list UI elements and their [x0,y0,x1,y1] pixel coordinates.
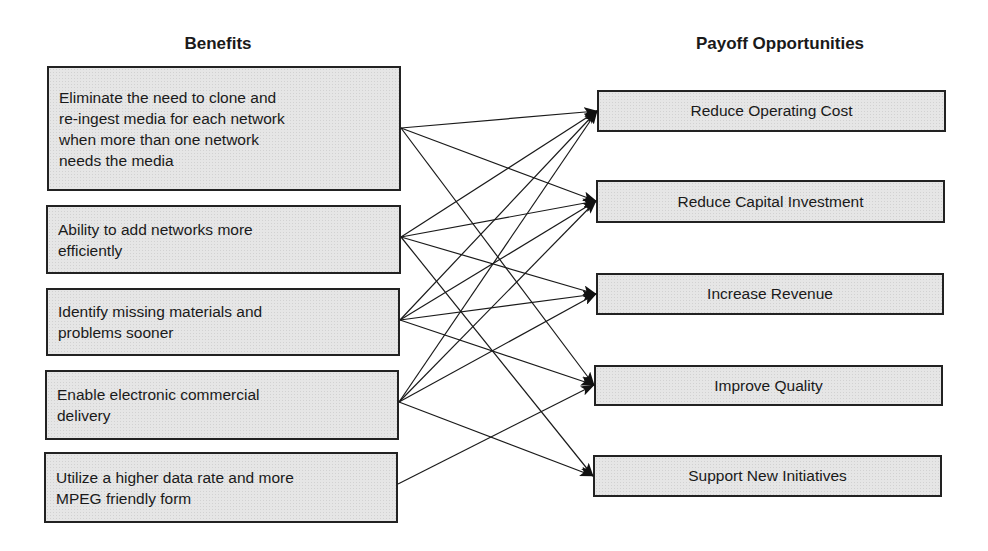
benefit-label: Utilize a higher data rate and more MPEG… [56,467,294,509]
arrow-B4-P2 [399,201,596,402]
arrow-B3-P2 [400,201,596,320]
benefit-box-clone-reingest: Eliminate the need to clone and re-inges… [47,66,401,191]
arrow-B1-P2 [401,128,596,201]
payoff-box-improve-quality: Improve Quality [594,365,943,406]
benefit-box-identify-missing: Identify missing materials and problems … [46,288,400,356]
benefits-heading: Benefits [148,34,288,54]
payoff-box-reduce-operating-cost: Reduce Operating Cost [597,90,946,132]
arrow-B1-P1 [401,111,597,128]
arrow-B3-P3 [400,294,596,320]
benefit-label: Eliminate the need to clone and re-inges… [59,87,285,171]
payoff-label: Reduce Capital Investment [677,193,863,211]
benefit-label: Identify missing materials and problems … [58,301,262,343]
arrow-B2-P1 [401,111,597,237]
arrow-B4-P5 [399,402,593,476]
benefit-box-electronic-delivery: Enable electronic commercial delivery [45,370,399,440]
arrow-B4-P3 [399,294,596,402]
arrow-B5-P4 [398,385,594,484]
benefit-label: Enable electronic commercial delivery [57,384,259,426]
arrow-B2-P3 [401,237,596,294]
payoff-label: Reduce Operating Cost [691,102,853,120]
arrow-B2-P2 [401,201,596,237]
payoff-box-reduce-capital-investment: Reduce Capital Investment [596,180,945,223]
arrow-B2-P5 [401,237,593,476]
benefit-box-higher-data-rate: Utilize a higher data rate and more MPEG… [44,452,398,523]
payoff-label: Support New Initiatives [688,467,847,485]
payoff-box-support-new-initiatives: Support New Initiatives [593,455,942,497]
benefit-box-add-networks: Ability to add networks more efficiently [46,205,401,274]
payoff-label: Improve Quality [714,377,823,395]
payoff-box-increase-revenue: Increase Revenue [596,273,944,315]
payoff-label: Increase Revenue [707,285,833,303]
arrow-B3-P4 [400,320,594,385]
payoff-opportunities-heading: Payoff Opportunities [660,34,900,54]
benefit-label: Ability to add networks more efficiently [58,219,253,261]
arrow-B3-P1 [400,111,597,320]
arrow-B4-P1 [399,111,597,402]
arrow-B1-P4 [401,128,594,385]
